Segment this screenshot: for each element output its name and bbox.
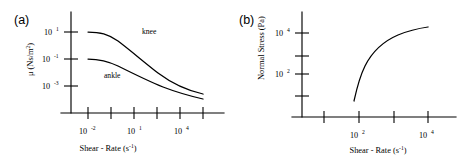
panel-b-y-axis-title: Normal Stress (Pa) [257, 16, 266, 80]
panel-b-x-title-tail: ) [404, 146, 407, 155]
panel-b-x-axis-title: Shear - Rate (s-1) [349, 145, 406, 155]
panel-a-y-tick-3-exponent: -3 [54, 80, 59, 86]
panel-a-y-tick-3-mantissa: 10 [42, 82, 50, 91]
panel-a-x-title-tail: ) [134, 144, 137, 153]
panel-a-x-title-main: Shear - Rate (s [79, 144, 129, 153]
panel-b-y-tick-2-mantissa: 10 [275, 70, 283, 79]
panel-b-x-title-main: Shear - Rate (s [349, 146, 399, 155]
panel-b-curve-normal-stress [354, 27, 428, 101]
panel-a-curve-knee [88, 32, 203, 94]
panel-a-y-tick-2-exponent: -1 [54, 53, 59, 59]
panel-a-y-tick-1-mantissa: 10 [44, 28, 52, 37]
panel-b-y-tick-1-mantissa: 10 [275, 29, 283, 38]
panel-b-label: (b) [239, 13, 254, 27]
panel-a-y-tick-2-mantissa: 10 [42, 55, 50, 64]
panel-a-x-tick-1-exponent: -2 [91, 125, 96, 131]
panel-a-y-tick-1-exponent: 1 [56, 26, 59, 32]
panel-b-x-tick-label-1: 10 2 [350, 129, 365, 140]
panel-a-label: (a) [14, 13, 29, 27]
panel-a-y-tick-label-2: 10 -1 [42, 53, 59, 64]
panel-a-x-tick-2-exponent: 1 [139, 125, 142, 131]
panel-b-y-tick-label-1: 10 4 [275, 27, 290, 38]
panel-a-x-tick-3-exponent: 4 [186, 125, 189, 131]
panel-b-x-tick-1-mantissa: 10 [350, 131, 358, 140]
panel-a-y-title-main: μ (Ns/m [26, 48, 35, 76]
panel-a-y-tick-label-3: 10 -3 [42, 80, 59, 91]
panel-a-x-tick-2-mantissa: 10 [127, 127, 135, 136]
panel-b: (b) 10 4 10 2 Normal Stress (Pa) [232, 0, 464, 157]
svg-text:μ (Ns/m2): μ (Ns/m2) [25, 43, 35, 76]
panel-a-y-tick-label-1: 10 1 [44, 26, 59, 37]
panel-a-x-axis-title: Shear - Rate (s-1) [79, 143, 136, 153]
panel-b-x-tick-2-mantissa: 10 [419, 131, 427, 140]
panel-a-x-tick-label-3: 10 4 [174, 125, 189, 136]
panel-a-y-axis-title: μ (Ns/m2) [25, 43, 35, 76]
panel-b-y-tick-2-exponent: 2 [287, 68, 290, 74]
panel-b-x-tick-label-2: 10 4 [419, 129, 434, 140]
panel-a-x-tick-label-1: 10 -2 [79, 125, 96, 136]
panel-a-curve-label-knee: knee [142, 27, 157, 36]
panel-a-y-title-tail: ) [26, 43, 35, 46]
figure-container: (a) 10 1 10 -1 10 -3 [0, 0, 464, 157]
panel-a: (a) 10 1 10 -1 10 -3 [0, 0, 232, 157]
panel-a-curve-label-ankle: ankle [104, 71, 121, 80]
panel-b-y-title-main: Normal Stress (Pa) [257, 16, 266, 80]
panel-b-x-tick-2-exponent: 4 [431, 129, 434, 135]
panel-a-x-tick-label-2: 10 1 [127, 125, 142, 136]
panel-a-x-tick-3-mantissa: 10 [174, 127, 182, 136]
panel-b-y-tick-label-2: 10 2 [275, 68, 290, 79]
panel-a-x-tick-1-mantissa: 10 [79, 127, 87, 136]
panel-b-x-tick-1-exponent: 2 [362, 129, 365, 135]
panel-b-y-tick-1-exponent: 4 [287, 27, 290, 33]
